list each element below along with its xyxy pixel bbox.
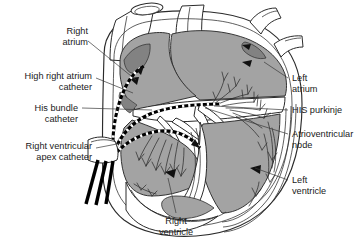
label-his-bundle-catheter: His bundle catheter (35, 103, 78, 124)
heart-conduction-diagram: Right atrium High right atrium catheter … (0, 0, 363, 250)
label-his-bundle-catheter-line2: catheter (45, 114, 78, 124)
label-right-ventricular-apex-catheter-line2: apex catheter (36, 152, 92, 162)
label-right-ventricular-apex-catheter: Right ventricular apex catheter (26, 141, 92, 162)
label-atrioventricular-node: Atrioventricular node (292, 129, 353, 150)
label-left-ventricle-line1: Left (292, 175, 308, 185)
label-right-ventricle-line1: Right (165, 216, 187, 226)
label-his-purkinje-line1: HIS purkinje (292, 105, 342, 115)
label-right-atrium-line1: Right (67, 26, 89, 36)
label-high-right-atrium-catheter-line1: High right atrium (25, 71, 93, 81)
label-right-atrium: Right atrium (62, 26, 88, 47)
label-high-right-atrium-catheter-line2: catheter (59, 82, 92, 92)
label-left-atrium: Left atrium (292, 73, 318, 94)
label-left-atrium-line2: atrium (292, 84, 318, 94)
label-his-bundle-catheter-line1: His bundle (35, 103, 78, 113)
label-right-ventricular-apex-catheter-line1: Right ventricular (26, 141, 92, 151)
label-right-atrium-line2: atrium (62, 37, 88, 47)
label-right-ventricle-line2: ventricle (159, 227, 193, 237)
label-left-ventricle-line2: ventricle (292, 186, 326, 196)
label-atrioventricular-node-line1: Atrioventricular (292, 129, 353, 139)
label-left-ventricle: Left ventricle (292, 175, 326, 196)
label-atrioventricular-node-line2: node (292, 140, 312, 150)
heart-illustration (86, 1, 303, 236)
label-his-purkinje: HIS purkinje (292, 105, 342, 115)
label-left-atrium-line1: Left (292, 73, 308, 83)
label-high-right-atrium-catheter: High right atrium catheter (25, 71, 93, 92)
